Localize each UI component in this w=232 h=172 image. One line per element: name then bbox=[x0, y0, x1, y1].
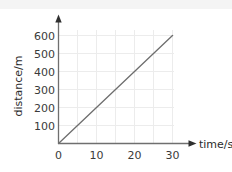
distance-time-line-chart: 600 500 400 300 200 100 0 10 20 30 dista… bbox=[0, 0, 232, 172]
chart-figure: 600 500 400 300 200 100 0 10 20 30 dista… bbox=[0, 0, 232, 172]
x-tick-label-10: 10 bbox=[90, 149, 104, 162]
y-axis-arrowhead-icon bbox=[55, 15, 61, 23]
x-tick-label-0: 0 bbox=[55, 149, 62, 162]
y-axis-title: distance/m bbox=[12, 55, 25, 116]
y-tick-label-600: 600 bbox=[34, 30, 55, 43]
y-tick-label-500: 500 bbox=[34, 48, 55, 61]
x-tick-label-20: 20 bbox=[128, 149, 142, 162]
y-tick-label-300: 300 bbox=[34, 84, 55, 97]
y-tick-label-100: 100 bbox=[34, 120, 55, 133]
y-tick-label-200: 200 bbox=[34, 102, 55, 115]
x-axis-title: time/s bbox=[199, 138, 232, 151]
y-tick-label-400: 400 bbox=[34, 66, 55, 79]
x-tick-label-30: 30 bbox=[166, 149, 180, 162]
x-axis-arrowhead-icon bbox=[189, 140, 197, 146]
